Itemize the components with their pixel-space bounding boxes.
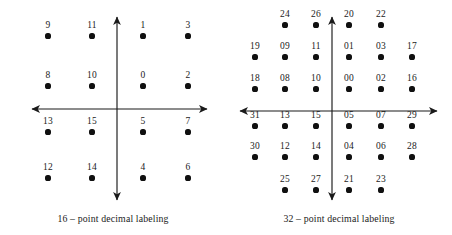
point-label: 08 [280,73,290,84]
point-dot [409,86,414,91]
point-dot [409,54,414,59]
point-dot [378,123,383,128]
point-dot [45,175,50,180]
point-dot [282,54,287,59]
point-dot [89,129,94,134]
point-dot [313,123,318,128]
point-label: 06 [376,141,386,152]
point-dot [252,54,257,59]
point-label: 29 [407,110,417,121]
point-dot [313,54,318,59]
point-dot [378,54,383,59]
point-dot [140,33,145,38]
point-label: 3 [186,20,191,31]
point-dot [252,123,257,128]
point-dot [313,22,318,27]
point-dot [378,187,383,192]
point-label: 1 [141,20,146,31]
point-dot [185,175,190,180]
point-label: 04 [344,141,354,152]
point-label: 27 [311,174,321,185]
point-label: 12 [280,141,290,152]
point-label: 11 [87,20,97,31]
point-dot [409,123,414,128]
axes-32 [226,0,452,212]
point-label: 0 [141,70,146,81]
point-label: 24 [280,9,290,20]
point-dot [140,129,145,134]
point-label: 22 [376,9,386,20]
point-dot [140,83,145,88]
point-dot [282,187,287,192]
point-dot [185,33,190,38]
point-dot [313,154,318,159]
point-dot [252,86,257,91]
point-dot [346,154,351,159]
point-label: 30 [250,141,260,152]
point-label: 2 [186,70,191,81]
point-dot [45,33,50,38]
point-label: 25 [280,174,290,185]
plot-area-16: 9 11 1 3 8 10 0 2 [0,0,226,212]
point-dot [346,54,351,59]
point-label: 28 [407,141,417,152]
point-dot [45,83,50,88]
point-label: 19 [250,41,260,52]
point-dot [45,129,50,134]
point-label: 10 [87,70,97,81]
point-dot [346,86,351,91]
point-label: 26 [311,9,321,20]
plot-area-32: 24 26 20 22 19 09 11 01 [226,0,452,212]
point-label: 10 [311,73,321,84]
point-label: 5 [141,116,146,127]
point-dot [89,175,94,180]
point-dot [346,187,351,192]
point-dot [346,22,351,27]
point-label: 14 [87,162,97,173]
point-label: 15 [311,110,321,121]
point-dot [346,123,351,128]
point-label: 14 [311,141,321,152]
point-dot [313,187,318,192]
point-dot [282,123,287,128]
axes-16 [0,0,226,212]
point-label: 02 [376,73,386,84]
point-label: 07 [376,110,386,121]
point-dot [185,129,190,134]
point-label: 13 [280,110,290,121]
point-dot [378,154,383,159]
point-label: 16 [407,73,417,84]
point-label: 15 [87,116,97,127]
point-dot [378,22,383,27]
point-dot [282,86,287,91]
point-label: 17 [407,41,417,52]
point-label: 11 [311,41,321,52]
point-label: 18 [250,73,260,84]
point-label: 4 [141,162,146,173]
point-dot [89,33,94,38]
point-dot [140,175,145,180]
point-dot [313,86,318,91]
point-label: 31 [250,110,260,121]
point-label: 05 [344,110,354,121]
point-label: 8 [46,70,51,81]
point-label: 6 [186,162,191,173]
figure-caption-16: 16 – point decimal labeling [0,212,226,226]
point-label: 23 [376,174,386,185]
point-dot [378,86,383,91]
point-label: 7 [186,116,191,127]
point-dot [89,83,94,88]
figure-32-point-constellation: 24 26 20 22 19 09 11 01 [226,0,452,235]
point-label: 03 [376,41,386,52]
point-label: 09 [280,41,290,52]
point-dot [282,154,287,159]
point-label: 9 [46,20,51,31]
point-dot [185,83,190,88]
point-label: 12 [43,162,53,173]
point-label: 01 [344,41,354,52]
point-dot [252,154,257,159]
point-label: 13 [43,116,53,127]
point-label: 21 [344,174,354,185]
point-label: 20 [344,9,354,20]
figure-16-point-constellation: 9 11 1 3 8 10 0 2 [0,0,226,235]
